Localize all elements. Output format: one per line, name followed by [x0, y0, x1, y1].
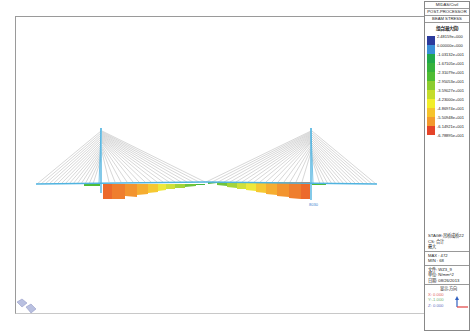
legend-swatch — [427, 90, 435, 99]
view-cube-icon[interactable] — [17, 299, 36, 313]
program-subtitle: POST-PROCESSOR — [425, 9, 469, 16]
legend-value: -5.50948e+001 — [437, 115, 464, 120]
node-label: 8030 — [309, 202, 318, 207]
legend-swatch — [427, 63, 435, 72]
model-viewport[interactable] — [0, 0, 471, 333]
legend-swatch — [427, 126, 435, 135]
right-bridge — [206, 128, 377, 200]
stage-label: STAGE:吊桥成桥22 — [425, 233, 469, 239]
legend-value: -2.31079e+001 — [437, 70, 464, 75]
legend-value: 2.48159e+000 — [437, 34, 463, 39]
result-type: BEAM STRESS — [425, 16, 469, 23]
legend-swatch — [427, 81, 435, 90]
legend-value: -1.67105e+001 — [437, 61, 464, 66]
date-label: 日期: 08/26/2013 — [425, 278, 469, 284]
legend-value: -3.59027e+001 — [437, 88, 464, 93]
max-heading: 最大 — [425, 244, 469, 250]
legend-swatch — [427, 99, 435, 108]
color-legend: 2.48159e+000 0.00000e+000 -1.03132e+001 … — [425, 33, 469, 141]
legend-value: -6.14921e+001 — [437, 124, 464, 129]
legend-value: -2.95053e+001 — [437, 79, 464, 84]
legend-title: 组合(最大值) — [425, 25, 469, 31]
left-bridge — [36, 128, 206, 199]
legend-swatch — [427, 117, 435, 126]
axis-triad-icon — [453, 296, 469, 310]
min-value: MIN : 68 — [425, 258, 469, 264]
program-name: MIDAS/Civil — [425, 2, 469, 9]
legend-swatch — [427, 36, 435, 45]
legend-value: 0.00000e+000 — [437, 43, 463, 48]
legend-value: -6.78895e+001 — [437, 133, 464, 138]
legend-swatch — [427, 54, 435, 63]
legend-value: -4.23000e+001 — [437, 97, 464, 102]
legend-swatch — [427, 72, 435, 81]
legend-value: -1.03132e+001 — [437, 52, 464, 57]
legend-panel: MIDAS/Civil POST-PROCESSOR BEAM STRESS 组… — [424, 1, 470, 331]
legend-value: -4.86974e+001 — [437, 106, 464, 111]
legend-swatch — [427, 45, 435, 54]
legend-swatch — [427, 108, 435, 117]
